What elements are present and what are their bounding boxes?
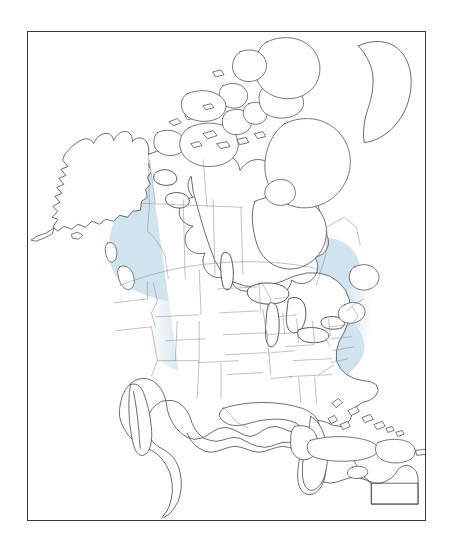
haida-gwaii — [105, 243, 117, 263]
kodiak-island — [72, 232, 83, 239]
page-root — [0, 0, 451, 549]
newfoundland — [349, 265, 379, 290]
jamaica — [347, 466, 367, 478]
border-or-ca — [116, 327, 152, 331]
north-america-map — [28, 32, 425, 520]
map-frame — [27, 31, 426, 521]
axel-heiberg-island — [232, 50, 266, 82]
alaska-peninsula — [31, 228, 54, 241]
border-wa-or — [114, 299, 148, 303]
hispaniola — [375, 439, 415, 463]
southampton-island — [265, 179, 296, 205]
cuba — [307, 437, 378, 462]
greenland-west-edge — [358, 41, 411, 142]
coastline-layer — [31, 38, 425, 518]
lake-winnipeg — [221, 252, 234, 289]
puerto-rico — [416, 449, 425, 455]
great-bear-lake — [154, 170, 177, 186]
